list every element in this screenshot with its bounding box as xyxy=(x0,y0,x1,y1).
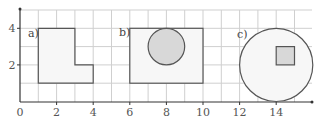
shape-c-inner-square xyxy=(276,47,294,65)
y-tick-label: 4 xyxy=(9,22,16,35)
shape-a: a) xyxy=(28,27,93,83)
x-tick-label: 12 xyxy=(233,106,247,119)
shape-c-label: c) xyxy=(237,28,247,41)
x-tick-label: 2 xyxy=(53,106,60,119)
coordinate-grid-diagram: 0 2 4 6 8 10 12 14 2 4 a) b) c) xyxy=(0,0,321,122)
shape-b: b) xyxy=(119,26,203,83)
x-tick-label: 4 xyxy=(90,106,97,119)
x-tick-label: 14 xyxy=(269,106,283,119)
shape-b-inner-circle xyxy=(148,28,185,65)
x-axis-end-dot xyxy=(311,101,314,104)
x-tick-label: 10 xyxy=(196,106,210,119)
shape-a-label: a) xyxy=(28,27,39,40)
x-tick-label: 0 xyxy=(17,106,24,119)
x-tick-label: 8 xyxy=(163,106,170,119)
y-axis-end-dot xyxy=(19,8,22,11)
shape-b-label: b) xyxy=(119,26,130,39)
x-tick-label: 6 xyxy=(126,106,133,119)
shape-c: c) xyxy=(237,28,313,102)
y-tick-label: 2 xyxy=(9,59,16,72)
